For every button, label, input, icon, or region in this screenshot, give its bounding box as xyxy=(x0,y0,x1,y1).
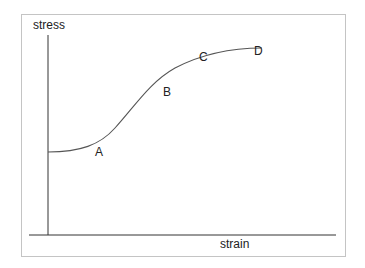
point-label-a: A xyxy=(95,146,103,158)
stress-strain-curve xyxy=(48,48,262,152)
point-label-d: D xyxy=(254,45,263,57)
x-axis-label: strain xyxy=(220,238,249,250)
stress-strain-plot xyxy=(0,0,365,268)
y-axis-label: stress xyxy=(33,19,65,31)
point-label-b: B xyxy=(163,86,171,98)
point-label-c: C xyxy=(199,51,208,63)
